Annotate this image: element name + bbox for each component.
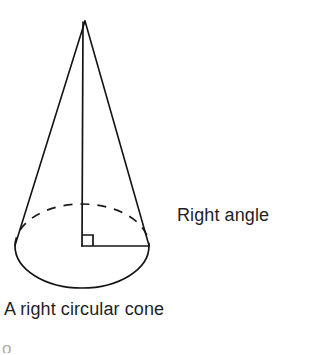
figure-page: Right angle A right circular cone o: [0, 0, 314, 355]
cone-right-slant: [85, 21, 149, 246]
right-angle-label: Right angle: [177, 206, 269, 224]
cone-axis-height-line: [82, 22, 83, 246]
cone-left-slant: [15, 21, 85, 246]
figure-caption: A right circular cone: [4, 300, 164, 318]
right-angle-marker: [82, 235, 93, 246]
clipped-glyph-artifact: o: [2, 345, 11, 353]
base-front-arc: [15, 246, 149, 288]
